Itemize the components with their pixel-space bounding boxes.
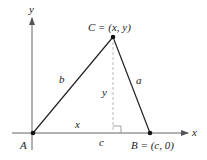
vertex-b-label: B = (c, 0) [131,139,174,152]
triangle-diagram: y x C = (x, y) A B = (c, 0) b a c x y [0,0,207,160]
height-y-label: y [101,86,107,98]
vertex-a-label: A [19,139,27,151]
diagram-svg: y x C = (x, y) A B = (c, 0) b a c x y [0,0,207,160]
x-axis-label: x [191,126,197,138]
side-b [33,37,113,133]
foot-x-label: x [74,118,80,130]
side-a-label: a [136,74,142,86]
side-c-label: c [99,136,104,148]
right-angle-marker [113,126,121,133]
vertex-c-point [111,35,116,40]
vertex-c-label: C = (x, y) [88,21,131,34]
side-b-label: b [59,73,65,85]
vertex-b-point [148,131,153,136]
vertex-a-point [31,131,36,136]
y-axis-label: y [28,3,34,15]
side-a [113,37,150,133]
